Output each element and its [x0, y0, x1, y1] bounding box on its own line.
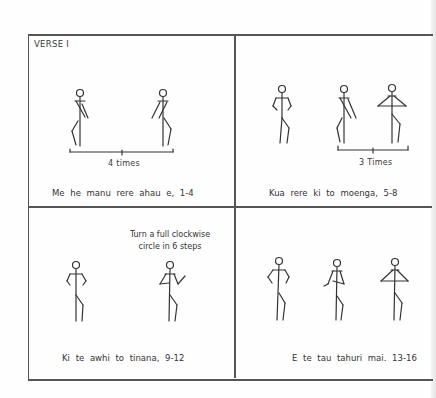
panel-caption: Kua rere ki to moenga, 5-8 [269, 188, 397, 198]
instruction-line: Turn a full clockwise [120, 229, 220, 241]
figure-icon [268, 258, 289, 321]
instruction-line: circle in 6 steps [120, 241, 220, 253]
panel-caption: E te tau tahuri mai. 13-16 [292, 353, 417, 363]
figure-icon [152, 90, 171, 147]
stick-figures [0, 0, 436, 398]
figure-icon [337, 86, 356, 144]
figure-icon [160, 262, 185, 322]
panel-caption: Ki te awhi to tinana, 9-12 [62, 353, 184, 363]
figure-icon [67, 262, 86, 322]
figure-icon [72, 90, 88, 147]
repeat-bracket-icon [70, 149, 173, 155]
repeat-label: 4 times [108, 159, 140, 168]
instruction-note: Turn a full clockwise circle in 6 steps [120, 229, 220, 253]
repeat-label: 3 Times [359, 158, 392, 167]
figure-icon [273, 86, 291, 144]
repeat-bracket-icon [338, 146, 408, 153]
figure-icon [381, 259, 408, 321]
panel-caption: Me he manu rere ahau e, 1-4 [52, 188, 194, 198]
figure-icon [378, 85, 406, 144]
figure-icon [324, 260, 344, 321]
